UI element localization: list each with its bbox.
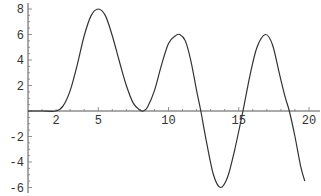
y-tick-label: 8 [17, 3, 24, 17]
line-chart: 25101520 -6-4-22468 [0, 0, 321, 196]
y-axis: -6-4-22468 [10, 3, 32, 196]
x-tick-label: 2 [52, 114, 59, 128]
y-tick-label: -4 [10, 156, 24, 170]
y-tick-label: -6 [10, 182, 24, 196]
x-tick-label: 5 [95, 114, 102, 128]
y-tick-label: 6 [17, 29, 24, 43]
x-tick-label: 10 [161, 114, 175, 128]
x-tick-label: 15 [232, 114, 246, 128]
y-tick-label: -2 [10, 131, 24, 145]
x-axis: 25101520 [28, 107, 320, 128]
y-tick-label: 2 [17, 80, 24, 94]
y-tick-label: 4 [17, 54, 24, 68]
x-tick-label: 20 [302, 114, 316, 128]
data-line [28, 9, 305, 188]
